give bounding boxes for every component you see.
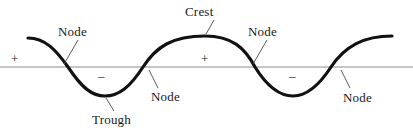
sign-minus-right: – [289,69,296,82]
leader-line-4 [106,98,114,111]
label-node-bottom-right: Node [343,91,372,105]
label-node-top-right: Node [248,25,277,39]
leader-line-1 [206,20,214,34]
label-node-bottom-left: Node [151,90,180,104]
label-node-top-left: Node [58,25,87,39]
leader-line-2 [253,40,267,64]
label-trough: Trough [92,113,131,127]
leader-line-0 [64,40,78,64]
sign-plus-right: + [201,52,208,65]
sign-minus-left: – [98,69,105,82]
wave-diagram-figure: Node Crest Node Node Trough Node + – + – [0,0,413,132]
leader-line-5 [341,70,350,88]
label-crest: Crest [185,5,213,19]
sign-plus-left: + [11,52,18,65]
wave-diagram-canvas [0,0,413,132]
sine-wave-curve [28,36,392,96]
leader-line-3 [149,70,158,88]
